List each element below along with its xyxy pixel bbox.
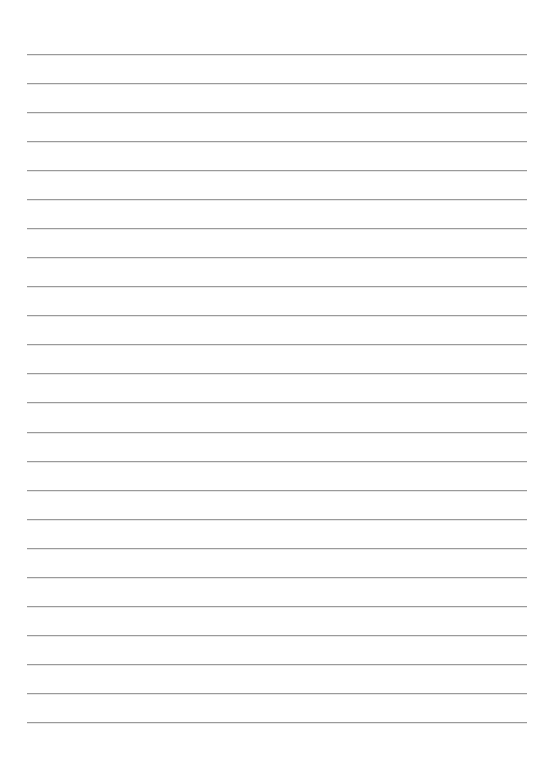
ruled-line	[27, 373, 527, 374]
ruled-line	[27, 722, 527, 723]
ruled-line	[27, 461, 527, 462]
ruled-line	[27, 519, 527, 520]
ruled-line	[27, 83, 527, 84]
ruled-line	[27, 286, 527, 287]
ruled-line	[27, 344, 527, 345]
ruled-line	[27, 664, 527, 665]
ruled-line	[27, 199, 527, 200]
ruled-line	[27, 635, 527, 636]
ruled-line	[27, 577, 527, 578]
lined-paper-page	[0, 0, 547, 757]
ruled-line	[27, 548, 527, 549]
ruled-line	[27, 54, 527, 55]
ruled-line	[27, 693, 527, 694]
ruled-line	[27, 432, 527, 433]
ruled-line	[27, 490, 527, 491]
ruled-line	[27, 228, 527, 229]
ruled-line	[27, 402, 527, 403]
ruled-line	[27, 606, 527, 607]
ruled-line	[27, 257, 527, 258]
ruled-line	[27, 141, 527, 142]
ruled-line	[27, 315, 527, 316]
ruled-line	[27, 170, 527, 171]
ruled-line	[27, 112, 527, 113]
